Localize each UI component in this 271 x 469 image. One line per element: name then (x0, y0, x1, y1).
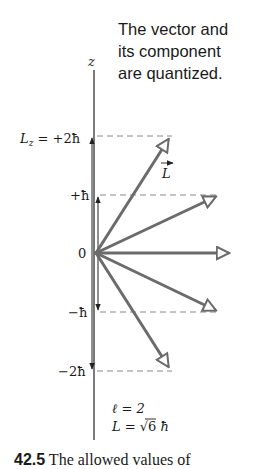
z-axis-label: z (87, 54, 95, 69)
L-magnitude: L = √6 ħ (111, 419, 169, 434)
level-label-zero: 0 (78, 246, 86, 261)
figure-caption: 42.5 The allowed values of (14, 451, 191, 469)
figure-number: 42.5 (14, 451, 45, 468)
L-magnitude-hbar: ħ (156, 419, 169, 434)
l-quantum-number: ℓ = 2 (112, 401, 145, 416)
level-label-plus-2: Lz = +2ħ (19, 131, 81, 148)
lz-value: = +2ħ (33, 131, 80, 146)
figure-caption-text: The allowed values of (45, 451, 190, 468)
level-label-minus-2: −2ħ (58, 364, 86, 379)
vector-label: L (161, 166, 171, 181)
L-magnitude-prefix: L = (111, 419, 140, 434)
lz-symbol: L (19, 131, 29, 146)
level-label-plus-1: +ħ (70, 188, 90, 203)
L-magnitude-sqrt: √6 (140, 419, 157, 434)
level-label-minus-1: −ħ (68, 305, 88, 320)
